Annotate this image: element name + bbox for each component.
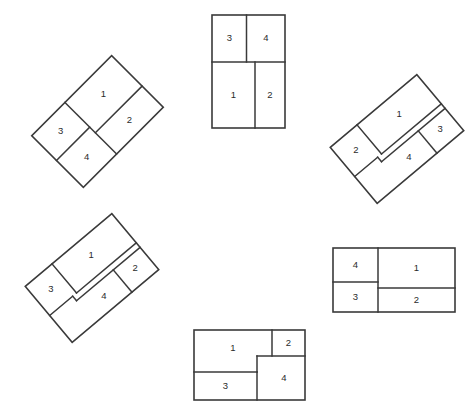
region-label-3: 3 <box>58 125 63 136</box>
region-label-1: 1 <box>230 342 235 353</box>
panel-outline <box>333 248 455 312</box>
region-label-2: 2 <box>132 262 137 273</box>
panel-outline <box>32 56 164 188</box>
region-label-2: 2 <box>267 89 272 100</box>
dissection-figure-canvas: 1 2 3 4 1 2 3 4 1 2 <box>0 0 476 416</box>
panel-lower-left: 1 2 3 4 <box>25 214 158 343</box>
panel-lower-right: 1 2 3 4 <box>333 248 455 312</box>
region-label-2: 2 <box>353 144 358 155</box>
panel-upper-right: 1 2 3 4 <box>330 75 463 204</box>
region-label-3: 3 <box>353 291 358 302</box>
region-label-4: 4 <box>84 151 89 162</box>
region-label-4: 4 <box>353 259 358 270</box>
panel-upper-left: 1 2 3 4 <box>32 56 164 188</box>
region-label-2: 2 <box>286 337 291 348</box>
region-label-1: 1 <box>101 88 106 99</box>
region-label-1: 1 <box>397 108 402 119</box>
region-label-3: 3 <box>437 123 442 134</box>
panel-outline <box>25 214 158 343</box>
region-label-1: 1 <box>414 262 419 273</box>
region-label-3: 3 <box>223 380 228 391</box>
region-label-1: 1 <box>88 249 93 260</box>
panel-outline <box>212 15 285 128</box>
region-label-4: 4 <box>406 151 411 162</box>
region-label-4: 4 <box>101 290 106 301</box>
region-label-2: 2 <box>414 294 419 305</box>
region-label-1: 1 <box>231 89 236 100</box>
region-label-2: 2 <box>127 114 132 125</box>
panel-bottom-center: 1 2 3 4 <box>194 330 305 400</box>
region-label-4: 4 <box>263 32 268 43</box>
region-label-4: 4 <box>281 372 286 383</box>
panel-top-center: 1 2 3 4 <box>212 15 285 128</box>
region-label-3: 3 <box>227 32 232 43</box>
region-label-3: 3 <box>48 283 53 294</box>
panel-outline <box>330 75 463 204</box>
